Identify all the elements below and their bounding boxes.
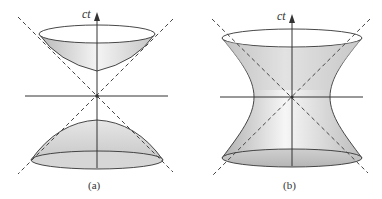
- ct-axis-label-b: ct: [277, 9, 286, 24]
- arrow-up-icon: [289, 14, 295, 23]
- arrow-up-icon: [94, 12, 100, 21]
- diagram-canvas: [0, 0, 382, 199]
- ct-axis-label-a: ct: [82, 7, 91, 22]
- origin-point: [290, 95, 293, 98]
- origin-point: [95, 94, 99, 98]
- caption-a: (a): [88, 179, 100, 191]
- figure-b: [212, 14, 370, 175]
- caption-b: (b): [283, 179, 296, 191]
- figure-a: [18, 12, 173, 174]
